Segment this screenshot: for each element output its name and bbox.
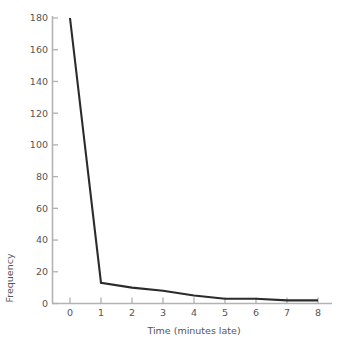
- x-axis-title: Time (minutes late): [146, 325, 240, 336]
- x-tick-label: 3: [160, 307, 166, 318]
- x-tick-label: 6: [253, 307, 259, 318]
- y-axis-ticks: 020406080100120140160180: [30, 12, 58, 309]
- chart-container: 020406080100120140160180 012345678 Time …: [0, 0, 342, 344]
- x-tick-label: 8: [315, 307, 321, 318]
- frequency-data-line: [70, 18, 318, 300]
- x-tick-label: 1: [98, 307, 104, 318]
- x-tick-label: 2: [129, 307, 135, 318]
- y-tick-label: 0: [42, 298, 48, 309]
- y-axis-title: Frequency: [4, 253, 15, 302]
- y-tick-label: 120: [30, 108, 48, 119]
- x-tick-label: 7: [284, 307, 290, 318]
- y-tick-label: 60: [36, 203, 48, 214]
- y-tick-label: 140: [30, 76, 48, 87]
- x-tick-label: 5: [222, 307, 228, 318]
- y-tick-label: 100: [30, 139, 48, 150]
- x-tick-label: 4: [191, 307, 197, 318]
- y-tick-label: 160: [30, 44, 48, 55]
- y-tick-label: 80: [36, 171, 48, 182]
- y-tick-label: 40: [36, 234, 48, 245]
- frequency-line-chart: 020406080100120140160180 012345678 Time …: [0, 0, 342, 344]
- y-tick-label: 20: [36, 266, 48, 277]
- y-tick-label: 180: [30, 12, 48, 23]
- x-tick-label: 0: [67, 307, 73, 318]
